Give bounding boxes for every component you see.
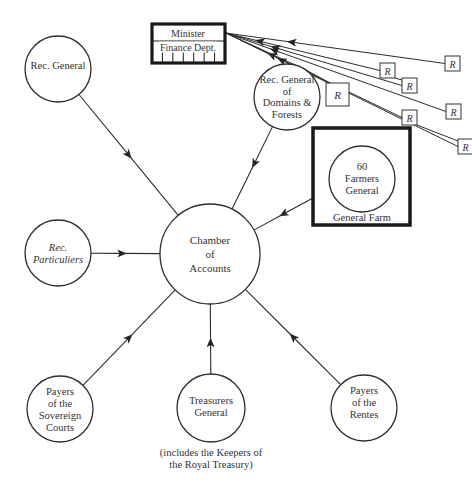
payers-sc-line-1: Payers xyxy=(39,386,82,398)
r-box-label: R xyxy=(384,65,390,76)
payers-sc-line-2: of the xyxy=(39,398,82,410)
payers-sc-line-4: Courts xyxy=(39,422,82,434)
general-farm-arrow xyxy=(283,198,313,214)
rec-general-line xyxy=(129,155,179,215)
r-boxes xyxy=(326,56,472,154)
r-box-label: R xyxy=(449,58,455,69)
rec-general-domains-forests-line xyxy=(232,164,254,209)
rgdf-line-3: Domains & xyxy=(260,97,315,109)
payers-sovereign-courts-arrow xyxy=(83,338,129,386)
payers-rentes-line xyxy=(245,289,293,337)
r-box-label: R xyxy=(462,141,468,152)
treasurers-line-1: Treasurers xyxy=(189,395,233,407)
rec-particuliers-line-2: Particuliers xyxy=(33,254,83,266)
rec-general-arrow xyxy=(79,94,129,154)
chamber-label: Chamber of Accounts xyxy=(189,233,231,275)
r-box-label: R xyxy=(406,112,412,123)
finance-dept-label: Finance Dept. xyxy=(159,42,217,53)
chamber-line-1: Chamber xyxy=(189,233,231,247)
payers-sovereign-courts-line xyxy=(129,290,175,338)
fg-line-3: General xyxy=(345,185,379,197)
payers-rentes-arrow xyxy=(293,337,341,385)
rec-general-domains-label: Rec. General of Domains & Forests xyxy=(260,74,315,120)
rec-particuliers-label: Rec. Particuliers xyxy=(33,242,83,266)
chamber-line-2: of xyxy=(189,247,231,261)
r-line-arrow xyxy=(292,42,445,63)
general-farm-line xyxy=(254,214,284,230)
payers-rentes-label: Payers of the Rentes xyxy=(350,385,379,421)
minister-label: Minister xyxy=(171,28,205,39)
r-box-label: R xyxy=(450,106,456,117)
farmers-general-label: 60 Farmers General xyxy=(345,161,379,197)
rec-general-text: Rec. General xyxy=(31,60,86,72)
r-box-label: R xyxy=(406,80,412,91)
treasurers-caption: (includes the Keepers of the Royal Treas… xyxy=(160,447,262,471)
rec-general-label: Rec. General xyxy=(31,60,86,72)
caption-line-1: (includes the Keepers of xyxy=(160,447,262,459)
chamber-line-3: Accounts xyxy=(189,261,231,275)
treasurers-line-2: General xyxy=(189,407,233,419)
fg-line-1: 60 xyxy=(345,161,379,173)
payers-sovereign-courts-label: Payers of the Sovereign Courts xyxy=(39,386,82,434)
r-line xyxy=(226,33,274,50)
rgdf-line-1: Rec. General xyxy=(260,74,315,86)
rec-particuliers-line-1: Rec. xyxy=(33,242,83,254)
fg-line-2: Farmers xyxy=(345,173,379,185)
r-box-label: R xyxy=(334,89,341,101)
caption-line-2: the Royal Treasury) xyxy=(160,459,262,471)
r-chain-line xyxy=(417,125,458,141)
rgdf-line-4: Forests xyxy=(260,109,315,121)
payers-sc-line-3: Sovereign xyxy=(39,410,82,422)
rgdf-line-2: of xyxy=(260,86,315,98)
payers-rentes-line-1: Payers xyxy=(350,385,379,397)
payers-rentes-line-2: of the xyxy=(350,397,379,409)
general-farm-label: General Farm xyxy=(333,212,391,223)
r-chain-line xyxy=(395,78,402,80)
treasurers-general-label: Treasurers General xyxy=(189,395,233,419)
payers-rentes-line-3: Rentes xyxy=(350,409,379,421)
rec-general-domains-forests-arrow xyxy=(254,127,272,164)
